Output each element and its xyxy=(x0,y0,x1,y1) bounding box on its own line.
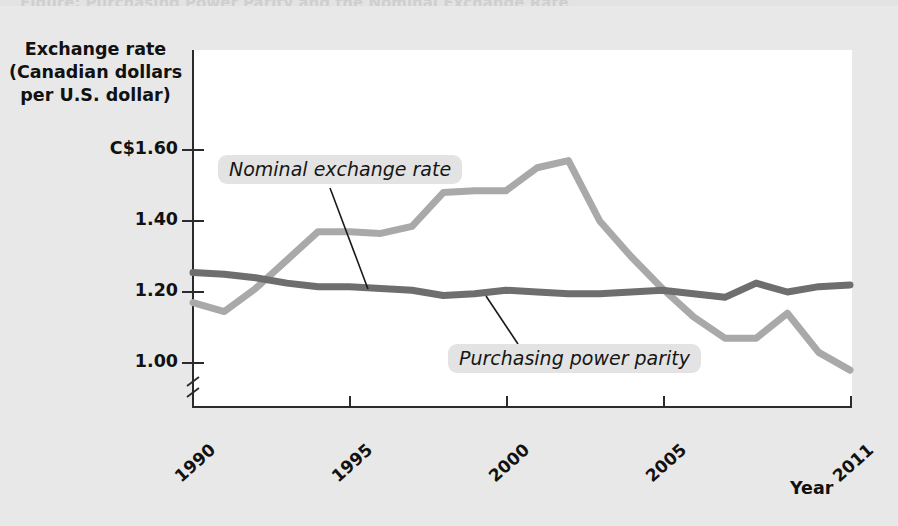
purchasing-power-parity-label: Purchasing power parity xyxy=(448,344,701,373)
x-tick-label-2011: 2011 xyxy=(829,439,878,486)
x-tick-label-2005: 2005 xyxy=(642,439,691,486)
y-tick-label-100: 1.00 xyxy=(135,351,178,371)
y-tick-label-160: C$1.60 xyxy=(110,138,178,158)
y-tick-mark-120 xyxy=(182,291,204,293)
x-tick-label-2000: 2000 xyxy=(485,439,534,486)
y-tick-labels: C$1.60 1.40 1.20 1.00 xyxy=(60,0,178,526)
y-tick-label-140: 1.40 xyxy=(135,209,178,229)
y-tick-mark-100 xyxy=(182,362,204,364)
x-tick-mark-2011 xyxy=(850,396,852,408)
x-tick-mark-2005 xyxy=(663,396,665,408)
y-tick-label-120: 1.20 xyxy=(135,280,178,300)
y-axis-break-icon xyxy=(184,374,204,400)
x-tick-mark-1995 xyxy=(349,396,351,408)
x-tick-mark-2000 xyxy=(506,396,508,408)
figure-container: Figure: Purchasing Power Parity and the … xyxy=(0,0,898,526)
y-tick-mark-140 xyxy=(182,220,204,222)
x-axis-line xyxy=(192,406,852,408)
x-axis-title: Year xyxy=(790,478,833,498)
nominal-exchange-rate-label: Nominal exchange rate xyxy=(218,155,462,184)
x-tick-label-1995: 1995 xyxy=(328,439,377,486)
y-axis-line xyxy=(192,50,194,408)
y-tick-mark-160 xyxy=(182,149,204,151)
